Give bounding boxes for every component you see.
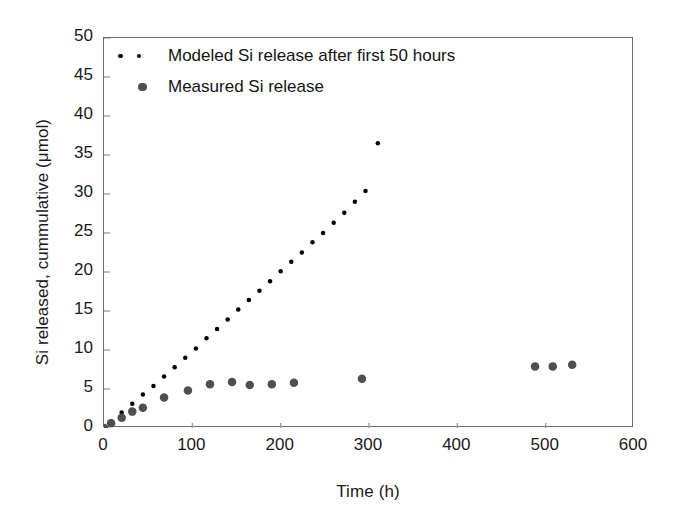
data-point: [246, 381, 255, 390]
data-point: [363, 189, 368, 194]
legend-label-modeled: Modeled Si release after first 50 hours: [166, 46, 455, 66]
data-point: [184, 386, 193, 395]
y-tick-label: 10: [55, 338, 93, 358]
data-point: [204, 336, 209, 341]
data-point: [107, 419, 116, 428]
data-point: [117, 414, 126, 423]
data-point: [183, 356, 188, 361]
data-point: [353, 200, 358, 205]
legend-label-measured: Measured Si release: [166, 77, 324, 97]
data-point: [206, 380, 215, 389]
y-tick-label: 35: [55, 143, 93, 163]
data-point: [376, 141, 381, 146]
y-tick-label: 50: [55, 26, 93, 46]
x-tick-label: 600: [603, 435, 663, 455]
legend-item-measured: Measured Si release: [118, 77, 324, 97]
data-point: [321, 231, 326, 236]
data-point: [162, 374, 167, 379]
x-tick-label: 500: [515, 435, 575, 455]
data-point: [236, 307, 241, 312]
data-point: [548, 362, 557, 371]
data-point: [300, 250, 305, 255]
x-tick-label: 0: [73, 435, 133, 455]
x-tick-label: 400: [426, 435, 486, 455]
y-tick-label: 30: [55, 182, 93, 202]
y-axis-title: Si released, cummulative (μmol): [33, 107, 53, 377]
data-point: [215, 327, 220, 332]
y-tick-label: 15: [55, 299, 93, 319]
data-point: [194, 346, 199, 351]
y-tick-label: 45: [55, 65, 93, 85]
data-point: [247, 298, 252, 303]
data-point: [358, 375, 367, 384]
legend-item-modeled: Modeled Si release after first 50 hours: [118, 46, 455, 66]
data-point: [568, 361, 577, 370]
large-dot-icon: [138, 83, 147, 92]
data-point: [290, 379, 299, 388]
data-point: [268, 279, 273, 284]
data-point: [531, 362, 540, 371]
y-tick-label: 40: [55, 104, 93, 124]
data-point: [228, 378, 237, 387]
data-point: [268, 380, 277, 389]
x-axis-title: Time (h): [103, 482, 633, 502]
data-point: [342, 210, 347, 215]
data-point: [130, 402, 135, 407]
y-tick-label: 25: [55, 221, 93, 241]
data-point: [141, 392, 146, 397]
x-tick-label: 200: [250, 435, 310, 455]
legend-marker-measured: [118, 83, 166, 92]
data-point: [225, 317, 230, 322]
data-point: [160, 393, 169, 402]
legend-marker-modeled: [118, 54, 166, 59]
data-point: [331, 221, 336, 226]
data-point: [310, 240, 315, 245]
y-tick-label: 5: [55, 377, 93, 397]
y-tick-label: 0: [55, 416, 93, 436]
x-tick-label: 300: [338, 435, 398, 455]
data-point: [139, 403, 148, 412]
data-point: [289, 260, 294, 265]
data-point: [128, 407, 137, 416]
chart-figure: Si released, cummulative (μmol) 05101520…: [0, 0, 677, 518]
data-point: [172, 365, 177, 370]
x-tick-label: 100: [161, 435, 221, 455]
data-point: [278, 269, 283, 274]
small-dot-icon: [118, 54, 123, 59]
data-point: [257, 288, 262, 293]
y-tick-label: 20: [55, 260, 93, 280]
data-point: [151, 384, 156, 389]
small-dot-icon: [137, 54, 142, 59]
